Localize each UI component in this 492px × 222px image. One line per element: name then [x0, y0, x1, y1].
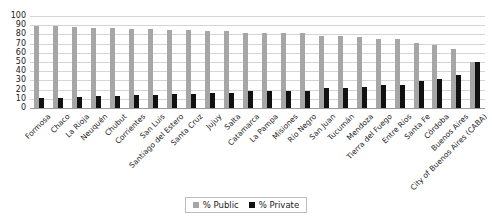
bar-group: [182, 16, 201, 108]
bar-group: [333, 16, 352, 108]
bar-group: [144, 16, 163, 108]
bar-group: [87, 16, 106, 108]
y-axis-tick: 20: [16, 86, 26, 94]
y-axis-tick: 50: [16, 58, 26, 66]
bar-private: [324, 88, 329, 108]
legend-item[interactable]: % Public: [193, 200, 239, 210]
bar-group: [238, 16, 257, 108]
bar-private: [153, 95, 158, 108]
bar-private: [456, 75, 461, 108]
bar-private: [286, 91, 291, 108]
bar-chart: 1009080706050403020100 FormosaChacoLa Ri…: [0, 0, 492, 222]
chart-legend: % Public% Private: [0, 197, 492, 213]
bar-group: [295, 16, 314, 108]
legend-swatch-public-icon: [193, 202, 199, 208]
bar-group: [447, 16, 466, 108]
bar-private: [475, 62, 480, 108]
bar-private: [58, 98, 63, 108]
bar-group: [409, 16, 428, 108]
bar-private: [229, 93, 234, 108]
bar-private: [134, 95, 139, 108]
bar-private: [210, 93, 215, 108]
y-axis-tick: 60: [16, 49, 26, 57]
bar-group: [276, 16, 295, 108]
axis-baseline: [30, 108, 485, 109]
bar-public: [53, 26, 58, 108]
bar-private: [400, 85, 405, 108]
bar-private: [96, 96, 101, 108]
bar-group: [163, 16, 182, 108]
bar-private: [39, 98, 44, 108]
bar-private: [191, 94, 196, 108]
y-axis-tick: 80: [16, 30, 26, 38]
bar-group: [390, 16, 409, 108]
bar-group: [106, 16, 125, 108]
bar-private: [115, 96, 120, 108]
bar-private: [437, 79, 442, 108]
bar-groups: [30, 16, 485, 108]
bar-private: [362, 87, 367, 108]
legend-swatch-private-icon: [249, 202, 255, 208]
plot-area: [30, 16, 485, 108]
y-axis: 1009080706050403020100: [0, 16, 28, 108]
bar-group: [314, 16, 333, 108]
bar-group: [125, 16, 144, 108]
bar-group: [220, 16, 239, 108]
y-axis-tick: 70: [16, 40, 26, 48]
bar-group: [466, 16, 485, 108]
legend-box: % Public% Private: [185, 197, 307, 213]
y-axis-tick: 30: [16, 76, 26, 84]
bar-group: [201, 16, 220, 108]
y-axis-tick: 40: [16, 67, 26, 75]
y-axis-tick: 100: [11, 12, 26, 20]
bar-private: [248, 91, 253, 108]
bar-public: [34, 26, 39, 108]
bar-group: [257, 16, 276, 108]
bar-private: [305, 91, 310, 108]
bar-group: [371, 16, 390, 108]
bar-group: [428, 16, 447, 108]
bar-private: [267, 91, 272, 108]
bar-group: [352, 16, 371, 108]
bar-private: [381, 85, 386, 108]
legend-label: % Private: [259, 200, 299, 210]
x-axis-label: Jujuy: [204, 112, 223, 131]
y-axis-tick: 0: [21, 104, 26, 112]
bar-private: [419, 81, 424, 108]
y-axis-tick: 10: [16, 95, 26, 103]
bar-private: [77, 97, 82, 108]
legend-item[interactable]: % Private: [249, 200, 299, 210]
y-axis-tick: 90: [16, 21, 26, 29]
bar-group: [49, 16, 68, 108]
x-axis-labels: FormosaChacoLa RiojaNeuquénChubutCorrien…: [30, 110, 485, 200]
bar-group: [68, 16, 87, 108]
legend-label: % Public: [203, 200, 239, 210]
bar-group: [30, 16, 49, 108]
bar-private: [343, 88, 348, 108]
x-axis-label: Formosa: [24, 112, 53, 141]
bar-public: [72, 27, 77, 108]
bar-private: [172, 94, 177, 108]
